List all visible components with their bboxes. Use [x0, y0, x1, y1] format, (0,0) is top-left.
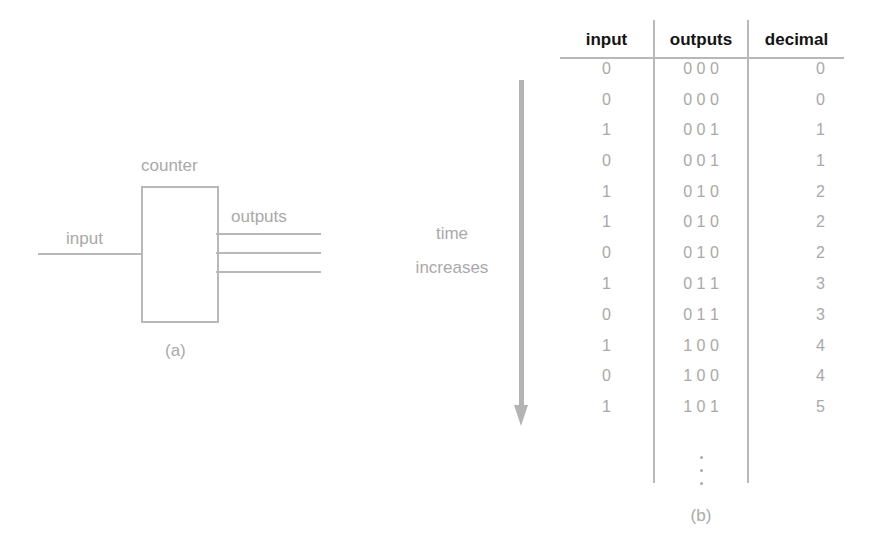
outputs-label: outputs [231, 207, 287, 227]
cell-input: 0 [560, 244, 653, 262]
cell-outputs: 1 0 1 [655, 398, 747, 416]
cell-outputs: 0 0 0 [655, 91, 747, 109]
cell-input: 1 [560, 398, 653, 416]
cell-decimal: 4 [773, 367, 868, 385]
output-line-2 [216, 252, 321, 254]
time-label-line1: time [402, 224, 502, 244]
cell-input: 1 [560, 337, 653, 355]
input-line [38, 253, 142, 255]
counter-block [141, 186, 219, 323]
cell-outputs: 0 0 1 [655, 121, 747, 139]
cell-decimal: 1 [773, 152, 868, 170]
cell-decimal: 3 [773, 275, 868, 293]
cell-outputs: 0 1 1 [655, 306, 747, 324]
cell-input: 0 [560, 91, 653, 109]
cell-decimal: 4 [773, 337, 868, 355]
table-header-rule [560, 57, 844, 59]
cell-outputs: 1 0 0 [655, 367, 747, 385]
table-divider-right [747, 20, 749, 483]
input-label: input [66, 229, 103, 249]
cell-decimal: 2 [773, 183, 868, 201]
output-line-1 [216, 233, 321, 235]
cell-outputs: 1 0 0 [655, 337, 747, 355]
cell-decimal: 1 [773, 121, 868, 139]
cell-input: 1 [560, 121, 653, 139]
cell-decimal: 2 [773, 244, 868, 262]
down-arrow-icon [514, 405, 528, 426]
column-header-input: input [560, 30, 653, 50]
cell-input: 1 [560, 213, 653, 231]
counter-label: counter [141, 156, 198, 176]
cell-input: 1 [560, 183, 653, 201]
cell-outputs: 0 0 1 [655, 152, 747, 170]
cell-input: 0 [560, 367, 653, 385]
cell-outputs: 0 0 0 [655, 60, 747, 78]
cell-decimal: 5 [773, 398, 868, 416]
cell-outputs: 0 1 0 [655, 183, 747, 201]
output-line-3 [216, 271, 321, 273]
time-arrow-shaft [519, 80, 524, 408]
cell-decimal: 2 [773, 213, 868, 231]
panel-a-caption: (a) [165, 341, 186, 361]
cell-decimal: 0 [773, 91, 868, 109]
cell-decimal: 0 [773, 60, 868, 78]
time-label-line2: increases [402, 258, 502, 278]
cell-input: 0 [560, 306, 653, 324]
cell-input: 1 [560, 275, 653, 293]
cell-decimal: 3 [773, 306, 868, 324]
cell-outputs: 0 1 0 [655, 213, 747, 231]
panel-b-caption: (b) [655, 506, 747, 526]
cell-outputs: 0 1 0 [655, 244, 747, 262]
cell-input: 0 [560, 152, 653, 170]
column-header-outputs: outputs [655, 30, 747, 50]
cell-outputs: 0 1 1 [655, 275, 747, 293]
cell-input: 0 [560, 60, 653, 78]
column-header-decimal: decimal [749, 30, 844, 50]
